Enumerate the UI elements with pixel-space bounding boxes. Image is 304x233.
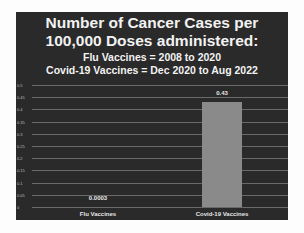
y-tick-label: 0.5 [17,83,31,88]
chart-subtitle-line2: Covid-19 Vaccines = Dec 2020 to Aug 2022 [16,64,288,77]
chart-title-line1: Number of Cancer Cases per [16,14,288,32]
chart-subtitle-line1: Flu Vaccines = 2008 to 2020 [16,51,288,64]
gridline [32,109,288,110]
data-label: 0.0003 [68,195,128,201]
y-tick-label: 0.1 [17,181,31,186]
x-category-label: Covid-19 Vaccines [182,211,262,217]
gridline [32,134,288,135]
chart-slide: Number of Cancer Cases per 100,000 Doses… [16,12,288,220]
gridline [32,122,288,123]
y-tick-label: 0.05 [17,193,31,198]
x-category-label: Flu Vaccines [58,211,138,217]
gridline [32,146,288,147]
y-tick-label: 0.4 [17,107,31,112]
gridline [32,207,288,208]
gridline [32,170,288,171]
chart-title-line2: 100,000 Doses administered: [16,32,288,50]
gridline [32,85,288,86]
y-tick-label: 0.25 [17,144,31,149]
y-tick-label: 0.35 [17,120,31,125]
y-tick-label: 0.3 [17,132,31,137]
gridline [32,97,288,98]
data-label: 0.43 [192,90,252,96]
y-tick-label: 0.15 [17,168,31,173]
bar-covid-19-vaccines [202,102,242,207]
gridline [32,158,288,159]
gridline [32,183,288,184]
y-tick-label: 0 [17,205,31,210]
y-tick-label: 0.45 [17,95,31,100]
y-tick-label: 0.2 [17,156,31,161]
